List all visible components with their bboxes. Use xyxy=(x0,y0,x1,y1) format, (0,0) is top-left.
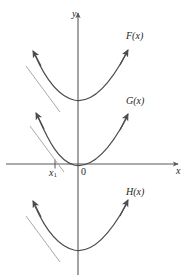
curve-arrow-G-left xyxy=(36,113,44,129)
curve-arrow-H-left xyxy=(33,201,41,217)
curve-path-G xyxy=(38,117,126,166)
curve-G xyxy=(36,113,128,166)
curve-F xyxy=(33,50,128,101)
tangent-line-F xyxy=(26,66,60,112)
curve-label-H: H(x) xyxy=(126,186,144,197)
x-axis-label: x xyxy=(176,165,180,176)
figure-canvas xyxy=(0,0,189,279)
x1-tick-label-subscript: 1 xyxy=(53,171,57,179)
parabola-family-figure: F(x) G(x) H(x) y x 0 x1 xyxy=(0,0,189,279)
y-axis-label: y xyxy=(72,8,76,19)
axis-group xyxy=(6,13,178,275)
curve-arrow-H-right xyxy=(120,200,128,216)
curve-label-G: G(x) xyxy=(126,95,144,106)
tangent-line-G xyxy=(30,126,64,172)
curve-arrow-G-right xyxy=(120,114,128,130)
curve-arrow-F-right xyxy=(120,50,128,65)
origin-label: 0 xyxy=(81,166,86,177)
curve-path-F xyxy=(35,54,126,101)
curve-label-F: F(x) xyxy=(126,30,143,41)
curve-arrow-F-left xyxy=(33,51,41,66)
curve-H xyxy=(33,200,128,251)
x1-tick-label: x1 xyxy=(49,167,57,179)
curve-path-H xyxy=(35,205,126,251)
